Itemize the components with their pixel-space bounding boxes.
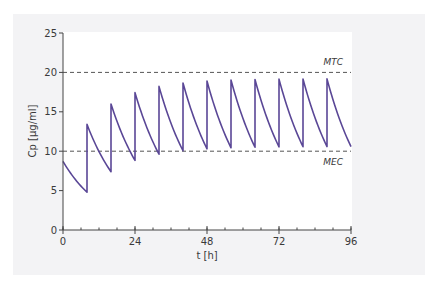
reference-label-mec: MEC xyxy=(323,157,343,167)
y-tick-label: 20 xyxy=(44,67,57,78)
y-tick-label: 10 xyxy=(44,146,57,157)
x-tick-label: 48 xyxy=(201,236,214,247)
y-tick-label: 15 xyxy=(44,106,57,117)
x-tick-label: 96 xyxy=(345,236,358,247)
y-tick-label: 0 xyxy=(51,225,57,236)
x-tick-label: 0 xyxy=(60,236,66,247)
y-tick-label: 5 xyxy=(51,185,57,196)
x-tick-label: 24 xyxy=(129,236,142,247)
x-axis-label: t [h] xyxy=(196,250,217,261)
reference-label-mtc: MTC xyxy=(323,57,343,67)
y-axis-label: Cp [µg/ml] xyxy=(27,104,38,157)
concentration-time-chart: MTCMEC 0510152025024487296 t [h] Cp [µg/… xyxy=(0,0,443,287)
y-tick-label: 25 xyxy=(44,28,57,39)
x-tick-label: 72 xyxy=(273,236,286,247)
